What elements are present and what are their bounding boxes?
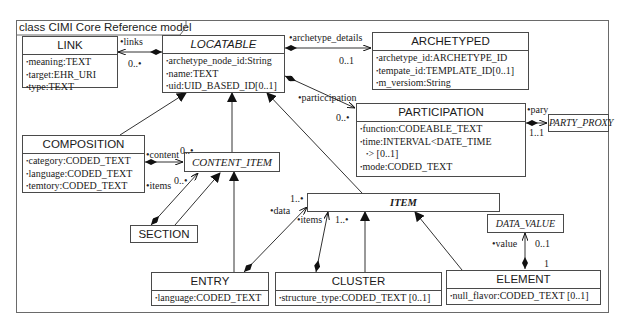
class-entry-attributes: language:CODED_TEXT — [152, 290, 268, 306]
attribute: structure_type:CODED_TEXT [0..1] — [279, 292, 438, 305]
class-content-item-name: CONTENT_ITEM — [192, 156, 272, 168]
section-items-role-label: •items — [146, 180, 171, 191]
class-participation[interactable]: PARTICIPATION function:CODEABLE_TEXT tim… — [356, 103, 526, 177]
attribute: archetype_id:ARCHETYPE_ID — [376, 52, 525, 65]
class-item-name: ITEM — [390, 197, 417, 208]
class-composition[interactable]: COMPOSITION category:CODED_TEXT language… — [22, 135, 145, 193]
class-composition-attributes: category:CODED_TEXT language:CODED_TEXT … — [23, 153, 144, 194]
content-role-label: •content — [146, 149, 179, 160]
class-data-value[interactable]: DATA_VALUE — [487, 214, 564, 233]
class-section[interactable]: SECTION — [130, 225, 198, 243]
class-composition-name: COMPOSITION — [23, 136, 144, 153]
attribute: category:CODED_TEXT — [26, 155, 141, 168]
attribute: function:CODEABLE_TEXT — [360, 123, 522, 136]
class-cluster[interactable]: CLUSTER structure_type:CODED_TEXT [0..1] — [275, 272, 442, 306]
participation-multiplicity-label: 0..• — [336, 112, 350, 123]
archetype-details-multiplicity-label: 0..1 — [339, 55, 354, 66]
class-data-value-name: DATA_VALUE — [496, 218, 555, 229]
attribute: uid:UID_BASED_ID[0..1] — [166, 80, 281, 93]
cluster-items-multiplicity-label: 1..• — [335, 214, 349, 225]
attribute: archetype_node_id:String — [166, 55, 281, 68]
class-locatable-attributes: archetype_node_id:String name:TEXT uid:U… — [163, 53, 284, 94]
class-section-name: SECTION — [138, 228, 189, 240]
attribute: meaning:TEXT — [26, 56, 114, 69]
archetype-details-role-label: •archetype_details — [289, 32, 362, 43]
attribute: language:CODED_TEXT — [26, 168, 141, 181]
content-multiplicity-label: 0..• — [180, 145, 194, 156]
section-items-multiplicity-label: 0..• — [174, 175, 188, 186]
attribute: null_flavor:CODED_TEXT [0..1] — [450, 290, 597, 303]
cluster-items-role-label: •items — [297, 214, 322, 225]
class-entry-name: ENTRY — [152, 273, 268, 290]
attribute: mode:CODED_TEXT — [360, 161, 522, 174]
class-archetyped-name: ARCHETYPED — [373, 33, 528, 50]
links-multiplicity-label: 0..• — [128, 58, 142, 69]
class-cluster-attributes: structure_type:CODED_TEXT [0..1] — [276, 290, 441, 306]
pary-role-label: •pary — [527, 104, 548, 115]
class-element-name: ELEMENT — [447, 271, 600, 288]
links-role-label: •links — [120, 36, 143, 47]
class-participation-attributes: function:CODEABLE_TEXT time:INTERVAL<DAT… — [357, 121, 525, 174]
attribute: m_versiom:String — [376, 77, 525, 90]
value-multiplicity-label: 0..1 — [535, 238, 550, 249]
composition-generalization — [120, 93, 186, 135]
class-cluster-name: CLUSTER — [276, 273, 441, 290]
class-item[interactable]: ITEM — [307, 193, 500, 212]
class-entry[interactable]: ENTRY language:CODED_TEXT — [151, 272, 269, 306]
participation-role-label: •particcipation — [298, 92, 356, 103]
attribute: temtory:CODED_TEXT — [26, 180, 141, 193]
class-party-proxy[interactable]: PARTY_PROXY — [548, 114, 609, 132]
class-locatable[interactable]: LOCATABLE archetype_node_id:String name:… — [162, 35, 285, 93]
frame-tab-outline — [16, 20, 186, 35]
value-role-label: •value — [492, 238, 517, 249]
attribute-continuation-text: > [0..1] — [368, 148, 398, 159]
class-archetyped[interactable]: ARCHETYPED archetype_id:ARCHETYPE_ID tem… — [372, 32, 529, 90]
class-locatable-name: LOCATABLE — [163, 36, 284, 53]
class-link-attributes: meaning:TEXT target:EHR_URI type:TEXT — [23, 54, 117, 95]
class-participation-name: PARTICIPATION — [357, 104, 525, 121]
item-generalization — [267, 93, 362, 193]
attribute: target:EHR_URI — [26, 69, 114, 82]
value-owner-multiplicity-label: 1 — [544, 258, 549, 269]
class-element[interactable]: ELEMENT null_flavor:CODED_TEXT [0..1] — [446, 270, 601, 305]
pary-multiplicity-label: 1..1 — [529, 127, 544, 138]
attribute-continuation: > [0..1] — [360, 148, 522, 161]
attribute: tempate_id:TEMPLATE_ID[0..1] — [376, 65, 525, 78]
class-link-name: LINK — [23, 37, 117, 54]
class-party-proxy-name: PARTY_PROXY — [549, 117, 613, 128]
class-archetyped-attributes: archetype_id:ARCHETYPE_ID tempate_id:TEM… — [373, 50, 528, 91]
attribute: name:TEXT — [166, 68, 281, 81]
class-element-attributes: null_flavor:CODED_TEXT [0..1] — [447, 288, 600, 304]
element-generalization — [415, 212, 462, 270]
attribute: language:CODED_TEXT — [155, 292, 265, 305]
attribute: type:TEXT — [26, 81, 114, 94]
class-link[interactable]: LINK meaning:TEXT target:EHR_URI type:TE… — [22, 36, 118, 88]
attribute: time:INTERVAL<DATE_TIME — [360, 136, 522, 149]
class-content-item[interactable]: CONTENT_ITEM — [184, 152, 280, 172]
data-multiplicity-label: 1..• — [290, 193, 304, 204]
data-role-label: •data — [270, 205, 290, 216]
